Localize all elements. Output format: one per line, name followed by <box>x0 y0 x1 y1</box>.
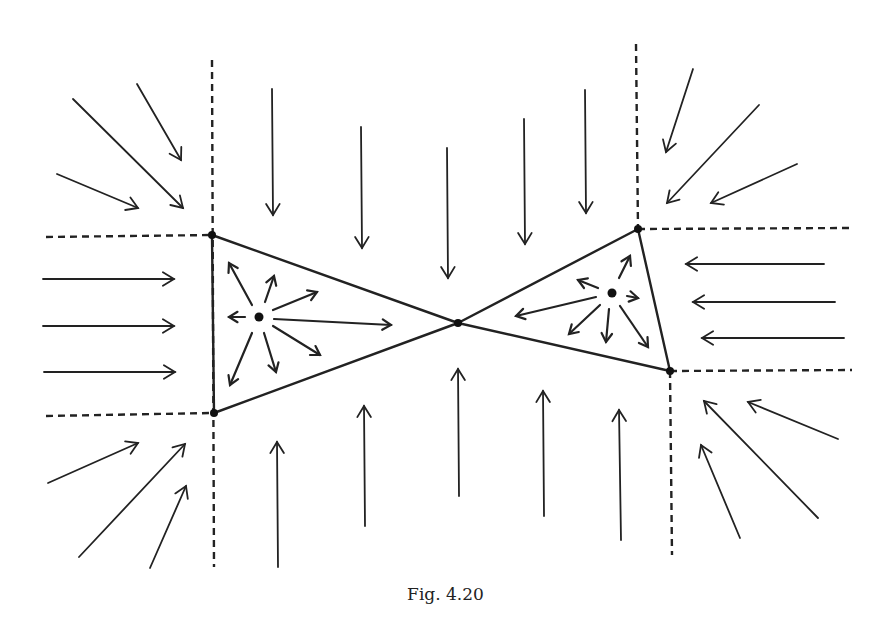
arrow-left-source-up-right-icon <box>273 290 317 310</box>
flow-diagram <box>0 0 891 627</box>
arrow-right-source-down-icon <box>602 309 612 342</box>
arrow-right-source-left-icon <box>516 297 596 319</box>
arrow-right-source-down-left-icon <box>569 305 600 334</box>
inner-source-arrows <box>229 256 649 385</box>
arrow-bottom-right-icon <box>699 445 740 538</box>
arrow-left-source-down-icon <box>264 333 279 372</box>
right-triangle <box>458 229 670 371</box>
arrow-top-icon <box>518 119 532 244</box>
arrow-top-icon <box>355 127 369 248</box>
dashed-line-right-top-horizontal <box>638 228 850 229</box>
vertex-right-bottom-dot <box>666 367 674 375</box>
arrow-top-left-icon <box>57 174 138 210</box>
arrow-right-source-up-right-icon <box>619 256 631 278</box>
arrow-top-right-icon <box>663 69 693 152</box>
arrow-right-source-down-right-icon <box>620 306 648 347</box>
arrow-left-source-up-icon <box>265 276 276 302</box>
arrow-left-icon <box>43 272 174 286</box>
arrow-left-source-down-right-icon <box>273 326 320 355</box>
arrow-left-source-down-left-icon <box>229 333 253 385</box>
arrow-top-icon <box>441 148 455 278</box>
left-triangle <box>212 235 458 413</box>
arrow-right-source-up-left-icon <box>578 278 598 288</box>
arrow-right-icon <box>686 257 824 271</box>
dashed-line-left-top-horizontal <box>46 235 212 237</box>
source-right-dot <box>608 289 617 298</box>
arrow-top-icon <box>266 89 280 215</box>
arrow-right-source-right-icon <box>627 291 638 301</box>
arrow-right-icon <box>702 331 844 345</box>
vertex-left-bottom-dot <box>210 409 218 417</box>
vertex-right-top-dot <box>634 225 642 233</box>
arrow-top-left-icon <box>137 84 181 160</box>
triangles <box>212 229 670 413</box>
arrow-bottom-icon <box>357 406 371 526</box>
arrow-top-left-icon <box>73 99 183 208</box>
arrow-left-icon <box>43 319 174 333</box>
arrow-bottom-icon <box>536 391 550 516</box>
dashed-boundaries <box>46 44 852 567</box>
arrow-right-icon <box>693 295 835 309</box>
arrow-top-right-icon <box>711 164 797 205</box>
arrow-bottom-icon <box>612 410 626 540</box>
dashed-line-right-bottom-vertical <box>670 371 672 555</box>
arrow-bottom-left-icon <box>48 441 138 483</box>
arrow-top-icon <box>579 90 593 213</box>
arrow-left-icon <box>44 365 175 379</box>
arrow-bottom-icon <box>451 369 465 496</box>
arrow-bottom-right-icon <box>704 401 818 518</box>
vertex-left-top-dot <box>208 231 216 239</box>
arrow-bottom-left-icon <box>79 444 185 557</box>
arrow-bottom-left-icon <box>150 486 188 568</box>
arrow-bottom-right-icon <box>748 400 838 439</box>
arrow-left-source-right-icon <box>274 319 391 330</box>
arrow-left-source-left-icon <box>229 312 245 322</box>
vertex-center-dot <box>454 319 462 327</box>
dashed-line-right-top-vertical <box>636 44 638 229</box>
source-left-dot <box>255 313 264 322</box>
dashed-line-right-bottom-horizontal <box>670 370 852 371</box>
arrow-bottom-icon <box>270 442 284 567</box>
arrow-left-source-up-left-icon <box>229 263 253 305</box>
dashed-line-left-bottom-horizontal <box>46 413 212 416</box>
figure-caption: Fig. 4.20 <box>0 584 891 604</box>
